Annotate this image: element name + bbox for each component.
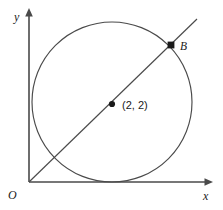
point-b-label: B (180, 40, 187, 52)
figure-canvas: y x O B (2, 2) (0, 0, 223, 210)
point-b-marker (168, 42, 175, 49)
origin-label: O (8, 188, 17, 202)
x-axis-arrowhead (205, 178, 214, 186)
x-axis-label: x (202, 189, 209, 203)
y-axis-label: y (13, 10, 20, 24)
center-point-marker (109, 101, 115, 107)
y-axis-arrowhead (25, 8, 33, 17)
center-coordinate-label: (2, 2) (122, 99, 148, 111)
geometry-figure: y x O B (2, 2) (0, 0, 223, 210)
